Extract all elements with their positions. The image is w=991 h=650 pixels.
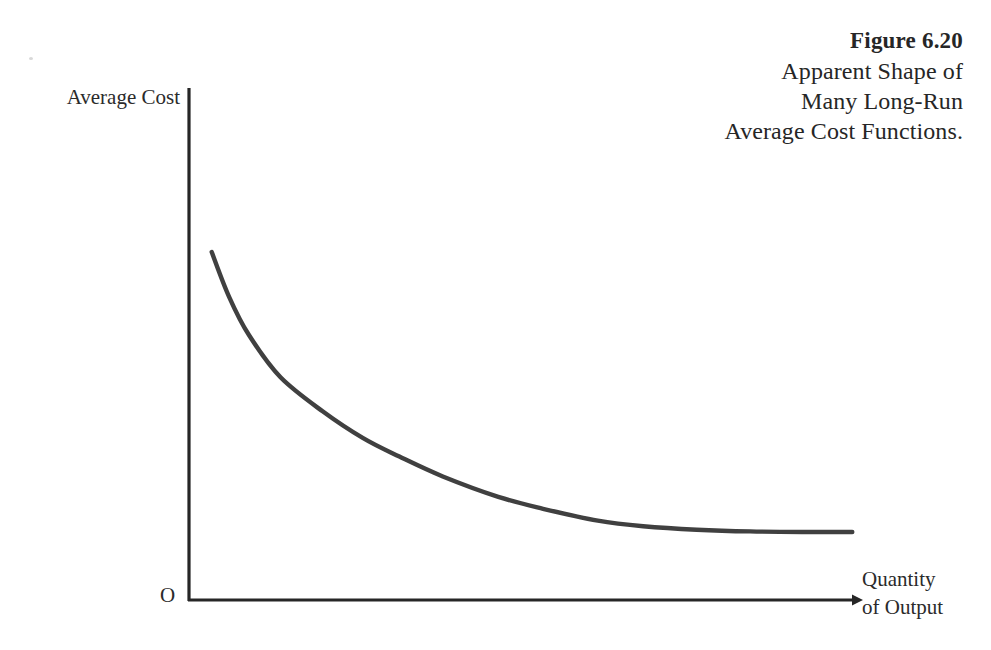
- average-cost-curve: [212, 252, 853, 532]
- x-axis-label-line-2: of Output: [862, 593, 943, 621]
- figure-page: Figure 6.20 Apparent Shape of Many Long-…: [0, 0, 991, 650]
- x-axis-label: Quantity of Output: [862, 565, 943, 621]
- y-axis-label: Average Cost: [67, 83, 180, 111]
- x-axis-label-line-1: Quantity: [862, 565, 943, 593]
- scan-speck-artifact: [29, 57, 33, 60]
- origin-label: O: [160, 581, 175, 609]
